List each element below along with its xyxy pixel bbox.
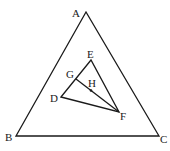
- point-h-dot: [90, 89, 93, 92]
- label-b: B: [5, 131, 12, 143]
- label-h: H: [88, 77, 96, 89]
- label-g: G: [66, 68, 74, 80]
- label-a: A: [72, 7, 80, 19]
- label-d: D: [50, 92, 58, 104]
- triangle-abc: [16, 12, 159, 136]
- label-c: C: [160, 133, 167, 145]
- point-labels: A B C D E F G H: [5, 7, 167, 145]
- outer-triangle-abc: [16, 12, 159, 136]
- geometry-diagram: A B C D E F G H: [0, 0, 170, 151]
- label-f: F: [120, 110, 126, 122]
- label-e: E: [87, 48, 94, 60]
